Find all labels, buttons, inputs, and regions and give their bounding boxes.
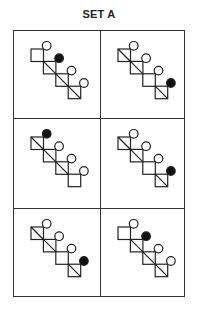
diagonal-line — [56, 162, 69, 175]
diagonal-line — [130, 149, 143, 162]
panel-4 — [101, 119, 186, 209]
diagonal-line — [118, 137, 131, 150]
diagonal-line — [68, 86, 81, 99]
diagonal-line — [130, 61, 143, 74]
open-circle-icon — [142, 142, 151, 151]
staircase-figure — [101, 31, 187, 121]
filled-circle-icon — [55, 54, 64, 63]
open-circle-icon — [129, 220, 138, 229]
diagonal-line — [155, 174, 168, 187]
open-circle-icon — [67, 66, 76, 75]
staircase-figure — [101, 209, 187, 299]
open-circle-icon — [142, 54, 151, 63]
open-circle-icon — [42, 42, 51, 51]
open-circle-icon — [129, 130, 138, 139]
filled-circle-icon — [42, 130, 51, 139]
staircase-figure — [14, 209, 100, 299]
diagonal-line — [130, 239, 143, 252]
open-circle-icon — [80, 167, 89, 176]
square-1 — [118, 227, 131, 240]
diagonal-line — [155, 86, 168, 99]
open-circle-icon — [154, 244, 163, 253]
diagonal-line — [143, 252, 156, 264]
filled-circle-icon — [80, 257, 89, 266]
staircase-figure — [101, 119, 187, 209]
open-circle-icon — [80, 79, 89, 88]
open-circle-icon — [129, 42, 138, 51]
filled-circle-icon — [167, 79, 176, 88]
square-3 — [143, 162, 156, 175]
panel-1 — [14, 31, 100, 119]
set-title: SET A — [0, 8, 198, 20]
panel-2 — [101, 31, 186, 119]
staircase-figure — [14, 31, 100, 121]
diagonal-line — [155, 264, 168, 277]
open-circle-icon — [42, 220, 51, 229]
filled-circle-icon — [142, 232, 151, 241]
diagonal-line — [118, 49, 131, 62]
staircase-figure — [14, 119, 100, 209]
diagonal-line — [68, 264, 81, 277]
figure-grid — [13, 30, 185, 297]
open-circle-icon — [167, 257, 176, 266]
diagonal-line — [31, 137, 44, 150]
square-4 — [68, 174, 81, 187]
diagonal-line — [43, 149, 56, 162]
diagonal-line — [56, 74, 69, 87]
square-3 — [56, 252, 69, 264]
open-circle-icon — [154, 154, 163, 163]
square-1 — [31, 49, 44, 62]
panel-3 — [14, 119, 100, 209]
diagonal-line — [43, 239, 56, 252]
diagonal-line — [31, 227, 44, 240]
open-circle-icon — [55, 142, 64, 151]
filled-circle-icon — [167, 167, 176, 176]
open-circle-icon — [154, 66, 163, 75]
diagonal-line — [43, 61, 56, 74]
open-circle-icon — [67, 154, 76, 163]
open-circle-icon — [55, 232, 64, 241]
panel-6 — [101, 209, 186, 298]
square-3 — [143, 74, 156, 87]
panel-5 — [14, 209, 100, 298]
open-circle-icon — [67, 244, 76, 253]
